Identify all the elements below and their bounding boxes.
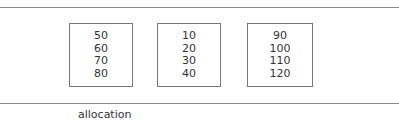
bottom-divider: [0, 103, 399, 104]
allocation-box-2: 10 20 30 40: [157, 23, 221, 87]
box-value: 10: [182, 30, 196, 43]
box-value: 50: [94, 30, 108, 43]
top-divider: [0, 7, 399, 8]
box-value: 120: [270, 68, 291, 81]
box-value: 30: [182, 55, 196, 68]
box-value: 90: [273, 30, 287, 43]
box-value: 70: [94, 55, 108, 68]
allocation-box-3: 90 100 110 120: [247, 23, 313, 87]
allocation-box-1: 50 60 70 80: [69, 23, 133, 87]
box-value: 80: [94, 68, 108, 81]
box-value: 110: [270, 55, 291, 68]
box-value: 40: [182, 68, 196, 81]
caption: allocation: [78, 108, 131, 120]
